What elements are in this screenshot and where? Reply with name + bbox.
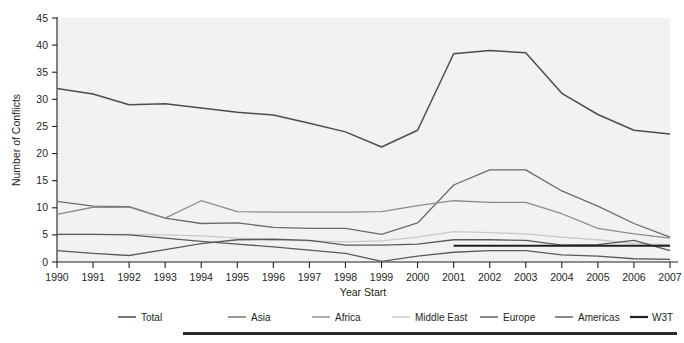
legend-label-americas: Americas	[578, 312, 620, 323]
x-tick-label: 2003	[514, 271, 538, 283]
x-tick-label: 2001	[442, 271, 466, 283]
y-tick-label: 35	[36, 66, 48, 78]
x-tick-label: 2002	[478, 271, 502, 283]
chart-figure: 051015202530354045 199019911992199319941…	[0, 0, 684, 343]
x-tick-label: 1991	[81, 271, 105, 283]
y-tick-label: 5	[42, 228, 48, 240]
legend-label-asia: Asia	[251, 312, 271, 323]
y-tick-label: 45	[36, 12, 48, 24]
x-tick-label: 2007	[658, 271, 682, 283]
x-tick-label: 1990	[45, 271, 69, 283]
footer-divider	[183, 332, 677, 335]
y-tick-label: 20	[36, 147, 48, 159]
x-tick-label: 1997	[298, 271, 322, 283]
y-tick-label: 25	[36, 120, 48, 132]
x-tick-label: 2000	[406, 271, 430, 283]
legend-label-w3t: W3T	[652, 312, 673, 323]
x-tick-label: 1992	[117, 271, 141, 283]
y-tick-label: 10	[36, 201, 48, 213]
y-tick-label: 40	[36, 39, 48, 51]
y-tick-label: 0	[42, 256, 48, 268]
y-tick-label: 15	[36, 174, 48, 186]
x-tick-label: 1993	[153, 271, 177, 283]
x-tick-label: 1999	[370, 271, 394, 283]
x-tick-label: 1994	[190, 271, 214, 283]
legend-label-europe: Europe	[503, 312, 536, 323]
x-tick-label: 1998	[334, 271, 358, 283]
x-tick-label: 1995	[226, 271, 250, 283]
y-tick-label: 30	[36, 93, 48, 105]
x-tick-label: 2005	[586, 271, 610, 283]
x-tick-label: 2004	[550, 271, 574, 283]
legend-label-africa: Africa	[335, 312, 361, 323]
conflicts-line-chart: 051015202530354045 199019911992199319941…	[0, 0, 684, 343]
legend-label-middle-east: Middle East	[415, 312, 467, 323]
y-axis-title: Number of Conflicts	[10, 94, 22, 186]
x-tick-label: 2006	[622, 271, 646, 283]
legend-label-total: Total	[141, 312, 162, 323]
x-tick-label: 1996	[262, 271, 286, 283]
x-axis-title: Year Start	[340, 286, 386, 298]
